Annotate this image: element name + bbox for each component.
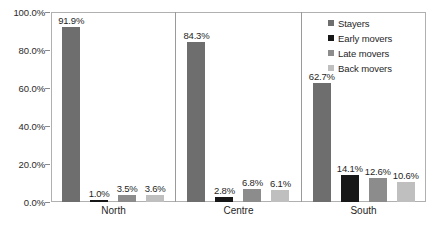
- bars-row: 91.9%1.0%3.5%3.6%: [51, 12, 175, 202]
- y-axis-tick-label: 0.0%: [24, 197, 45, 208]
- y-axis-tick-mark: [45, 12, 50, 13]
- y-axis-tick-mark: [45, 50, 50, 51]
- legend: StayersEarly moversLate moversBack mover…: [328, 16, 392, 75]
- bar-south-back-movers[interactable]: 10.6%: [397, 182, 415, 202]
- bar-slot: 10.6%: [392, 12, 420, 202]
- bar-group-north: 91.9%1.0%3.5%3.6%: [51, 12, 175, 202]
- bar-slot: 1.0%: [85, 12, 113, 202]
- bar-north-early-movers[interactable]: 1.0%: [90, 200, 108, 202]
- bar-north-late-movers[interactable]: 3.5%: [118, 195, 136, 202]
- y-axis: 0.0%20.0%40.0%60.0%80.0%100.0%: [0, 0, 48, 233]
- legend-item-late-movers[interactable]: Late movers: [328, 46, 392, 60]
- legend-label: Back movers: [338, 63, 392, 74]
- bar-value-label: 84.3%: [184, 30, 210, 41]
- legend-label: Late movers: [338, 48, 389, 59]
- y-axis-tick-mark: [45, 88, 50, 89]
- bar-value-label: 91.9%: [58, 15, 84, 26]
- legend-label: Stayers: [338, 18, 370, 29]
- bar-value-label: 14.1%: [337, 163, 363, 174]
- bar-south-stayers[interactable]: 62.7%: [313, 83, 331, 202]
- x-axis-category-labels: NorthCentreSouth: [51, 205, 426, 216]
- legend-swatch-icon: [328, 65, 334, 71]
- bar-centre-stayers[interactable]: 84.3%: [187, 42, 205, 202]
- y-axis-tick-label: 80.0%: [19, 45, 45, 56]
- bar-value-label: 2.8%: [214, 185, 235, 196]
- legend-label: Early movers: [338, 33, 392, 44]
- legend-swatch-icon: [328, 20, 334, 26]
- y-axis-tick-mark: [45, 126, 50, 127]
- y-axis-tick-label: 20.0%: [19, 159, 45, 170]
- x-axis-label-centre: Centre: [176, 205, 301, 216]
- bar-north-back-movers[interactable]: 3.6%: [146, 195, 164, 202]
- bar-slot: 91.9%: [57, 12, 85, 202]
- bar-slot: 3.6%: [141, 12, 169, 202]
- bar-value-label: 3.5%: [117, 183, 138, 194]
- legend-item-early-movers[interactable]: Early movers: [328, 31, 392, 45]
- bar-slot: 2.8%: [210, 12, 238, 202]
- bar-slot: 84.3%: [182, 12, 210, 202]
- bar-chart: 0.0%20.0%40.0%60.0%80.0%100.0% 91.9%1.0%…: [0, 0, 436, 233]
- bar-value-label: 12.6%: [365, 166, 391, 177]
- bar-slot: 6.8%: [238, 12, 266, 202]
- legend-swatch-icon: [328, 35, 334, 41]
- legend-item-stayers[interactable]: Stayers: [328, 16, 392, 30]
- bar-slot: 6.1%: [266, 12, 294, 202]
- bar-value-label: 1.0%: [89, 188, 110, 199]
- bar-north-stayers[interactable]: 91.9%: [62, 27, 80, 202]
- x-axis-label-north: North: [51, 205, 176, 216]
- bar-group-centre: 84.3%2.8%6.8%6.1%: [175, 12, 300, 202]
- y-axis-tick-label: 40.0%: [19, 121, 45, 132]
- legend-item-back-movers[interactable]: Back movers: [328, 61, 392, 75]
- bar-value-label: 10.6%: [393, 170, 419, 181]
- bars-row: 84.3%2.8%6.8%6.1%: [176, 12, 300, 202]
- bar-south-late-movers[interactable]: 12.6%: [369, 178, 387, 202]
- bar-value-label: 3.6%: [145, 183, 166, 194]
- bar-value-label: 6.1%: [270, 178, 291, 189]
- y-axis-tick-label: 100.0%: [13, 7, 45, 18]
- bar-value-label: 6.8%: [242, 177, 263, 188]
- y-axis-tick-label: 60.0%: [19, 83, 45, 94]
- y-axis-tick-mark: [45, 164, 50, 165]
- x-axis-label-south: South: [301, 205, 426, 216]
- legend-swatch-icon: [328, 50, 334, 56]
- bar-slot: 3.5%: [113, 12, 141, 202]
- bar-centre-early-movers[interactable]: 2.8%: [215, 197, 233, 202]
- bar-south-early-movers[interactable]: 14.1%: [341, 175, 359, 202]
- bar-centre-late-movers[interactable]: 6.8%: [243, 189, 261, 202]
- bar-centre-back-movers[interactable]: 6.1%: [271, 190, 289, 202]
- y-axis-tick-mark: [45, 202, 50, 203]
